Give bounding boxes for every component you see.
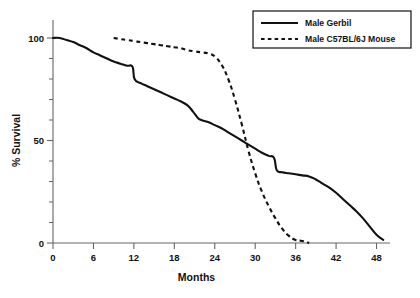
y-tick-label: 0 bbox=[39, 238, 44, 249]
survival-chart-figure: 050100 % Survival 0612182430364248 Month… bbox=[0, 0, 420, 298]
x-tick-label: 0 bbox=[50, 252, 55, 263]
x-axis-title: Months bbox=[178, 271, 215, 283]
x-tick-label: 36 bbox=[290, 252, 301, 263]
y-tick-label: 100 bbox=[28, 33, 44, 44]
x-tick-label: 42 bbox=[331, 252, 342, 263]
y-axis-tick-labels: 050100 bbox=[28, 33, 44, 249]
x-axis-tick-labels: 0612182430364248 bbox=[50, 252, 381, 263]
y-tick-label: 50 bbox=[33, 135, 44, 146]
data-series-group bbox=[53, 38, 383, 243]
y-axis-group: 050100 % Survival bbox=[10, 20, 53, 249]
x-tick-label: 12 bbox=[129, 252, 140, 263]
y-axis-major-ticks bbox=[47, 38, 53, 243]
x-axis-major-ticks bbox=[53, 243, 377, 249]
x-tick-label: 24 bbox=[209, 252, 220, 263]
series-line-2 bbox=[114, 38, 309, 243]
x-tick-label: 18 bbox=[169, 252, 180, 263]
x-tick-label: 6 bbox=[91, 252, 96, 263]
x-axis-group: 0612182430364248 Months bbox=[50, 243, 390, 283]
x-tick-label: 30 bbox=[250, 252, 261, 263]
chart-canvas: 050100 % Survival 0612182430364248 Month… bbox=[0, 0, 420, 298]
legend-label-1: Male Gerbil bbox=[305, 18, 351, 28]
chart-legend: Male GerbilMale C57BL/6J Mouse bbox=[253, 11, 411, 48]
series-line-1 bbox=[53, 38, 383, 240]
legend-label-2: Male C57BL/6J Mouse bbox=[305, 34, 395, 44]
x-tick-label: 48 bbox=[371, 252, 382, 263]
y-axis-title: % Survival bbox=[10, 114, 22, 167]
